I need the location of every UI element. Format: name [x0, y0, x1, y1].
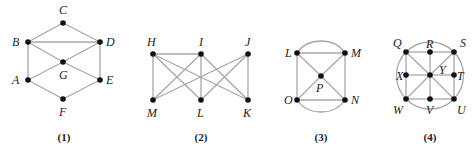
graph-figure: CBDGAEF(1) HIJMLK(2) LMPON(3) QRSXYTWVU(… — [0, 0, 474, 152]
vertex-label: O — [284, 93, 293, 107]
edge-c-d — [63, 23, 100, 42]
vertex-label: K — [242, 106, 252, 120]
vertex-y — [427, 72, 433, 78]
graph-caption: (1) — [58, 131, 71, 144]
vertex-j — [245, 51, 251, 57]
vertex-g — [60, 59, 66, 65]
vertex-p — [318, 73, 324, 79]
vertex-e — [97, 77, 103, 83]
vertex-label: G — [59, 68, 68, 82]
vertex-l — [294, 50, 300, 56]
edge-g-a — [28, 62, 63, 80]
vertex-label: N — [350, 93, 360, 107]
vertex-label: R — [425, 37, 434, 51]
vertex-label: C — [59, 3, 68, 17]
vertex-v — [427, 96, 433, 102]
edge-y-w — [406, 75, 430, 99]
vertex-o — [294, 97, 300, 103]
vertex-label: F — [58, 105, 67, 119]
vertex-label: E — [105, 73, 114, 87]
vertex-label: X — [395, 69, 404, 83]
vertex-label: J — [245, 35, 251, 49]
graph-caption: (4) — [424, 131, 437, 144]
vertex-label: M — [350, 46, 362, 60]
arc-edge — [297, 100, 345, 112]
vertex-n — [342, 97, 348, 103]
edge-p-n — [321, 76, 345, 100]
vertex-q — [403, 49, 409, 55]
vertex-label: H — [146, 35, 157, 49]
vertex-label: V — [426, 103, 435, 117]
graph-caption: (3) — [315, 131, 328, 144]
vertex-w — [403, 96, 409, 102]
edge-a-f — [28, 80, 63, 99]
edge-l-p — [297, 53, 321, 76]
edge-b-c — [28, 23, 63, 42]
vertex-label: B — [12, 35, 20, 49]
graph-1: CBDGAEF(1) — [11, 3, 115, 144]
edge-m-p — [321, 53, 345, 76]
vertex-label: M — [146, 106, 158, 120]
vertex-c — [60, 20, 66, 26]
edge-y-u — [430, 75, 454, 99]
edge-g-e — [63, 62, 100, 80]
vertex-k — [245, 97, 251, 103]
edge-q-y — [406, 52, 430, 75]
vertex-label: A — [11, 73, 20, 87]
vertex-label: D — [105, 35, 115, 49]
vertex-d — [97, 39, 103, 45]
vertex-a — [25, 77, 31, 83]
vertex-f — [60, 96, 66, 102]
vertex-s — [451, 49, 457, 55]
vertex-label: P — [315, 81, 324, 95]
vertex-l — [198, 97, 204, 103]
edge-b-g — [28, 42, 63, 62]
arc-edge — [297, 41, 345, 53]
edge-f-e — [63, 80, 100, 99]
vertex-label: L — [284, 46, 292, 60]
vertex-label: L — [196, 106, 204, 120]
graph-3: LMPON(3) — [284, 41, 362, 144]
graph-2: HIJMLK(2) — [146, 35, 252, 144]
vertex-label: S — [460, 36, 466, 50]
vertex-label: U — [457, 103, 467, 117]
graph-caption: (2) — [195, 131, 208, 144]
vertex-m — [342, 50, 348, 56]
vertex-i — [198, 51, 204, 57]
vertex-label: W — [393, 103, 404, 117]
vertex-m — [150, 97, 156, 103]
vertex-label: I — [198, 35, 204, 49]
vertex-label: Q — [393, 36, 402, 50]
vertex-u — [451, 96, 457, 102]
vertex-h — [150, 51, 156, 57]
edge-d-g — [63, 42, 100, 62]
graph-4: QRSXYTWVU(4) — [393, 36, 467, 144]
vertex-t — [451, 72, 457, 78]
vertex-x — [403, 72, 409, 78]
vertex-b — [25, 39, 31, 45]
